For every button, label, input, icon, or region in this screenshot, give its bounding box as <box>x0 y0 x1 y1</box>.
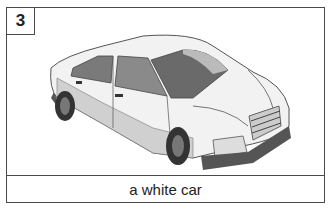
caption-divider <box>7 175 324 176</box>
card-number: 3 <box>7 8 35 35</box>
card-caption: a white car <box>7 177 324 202</box>
car-illustration <box>43 28 297 173</box>
flashcard: 3 a white car <box>6 7 325 203</box>
